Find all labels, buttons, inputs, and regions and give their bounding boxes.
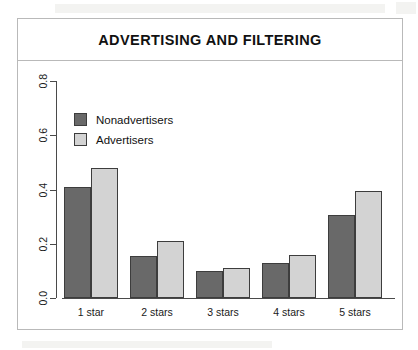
scan-artifact-bottom (22, 341, 272, 348)
bar (262, 263, 289, 298)
chart-legend: Nonadvertisers Advertisers (74, 113, 173, 153)
legend-item-advertisers: Advertisers (74, 133, 173, 146)
bar (157, 241, 184, 298)
scan-artifact-right (396, 2, 416, 14)
legend-label-nonadvertisers: Nonadvertisers (96, 114, 173, 126)
plot-area: 0.00.20.40.60.8 1 star2 stars3 stars4 st… (18, 61, 404, 330)
x-tick-label: 5 stars (328, 306, 382, 318)
bar (91, 168, 118, 298)
bar (130, 256, 157, 298)
x-tick-label: 4 stars (262, 306, 316, 318)
bars-layer (18, 61, 404, 330)
chart-figure: ADVERTISING AND FILTERING 0.00.20.40.60.… (17, 18, 403, 330)
bar (64, 187, 91, 298)
legend-item-nonadvertisers: Nonadvertisers (74, 113, 173, 126)
bar (223, 268, 250, 298)
chart-title: ADVERTISING AND FILTERING (98, 32, 321, 48)
legend-label-advertisers: Advertisers (96, 134, 154, 146)
chart-title-bar: ADVERTISING AND FILTERING (18, 19, 402, 61)
bar (289, 255, 316, 298)
x-tick-label: 1 star (64, 306, 118, 318)
scan-artifact-top (55, 4, 385, 13)
legend-swatch-nonadvertisers (74, 113, 87, 126)
bar (196, 271, 223, 298)
legend-swatch-advertisers (74, 133, 87, 146)
x-tick-label: 3 stars (196, 306, 250, 318)
bar (328, 215, 355, 298)
x-tick-label: 2 stars (130, 306, 184, 318)
bar (355, 191, 382, 298)
